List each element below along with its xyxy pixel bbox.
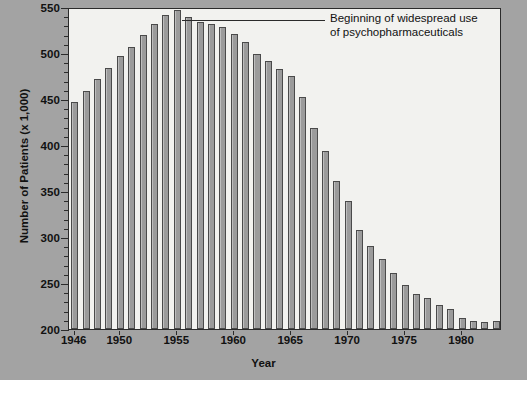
bars-layer (69, 9, 500, 329)
x-tick-label: 1955 (163, 334, 189, 346)
y-minor-tick (64, 183, 69, 184)
bar (447, 309, 454, 329)
y-minor-tick (64, 220, 69, 221)
bar (197, 22, 204, 329)
y-minor-tick (64, 82, 69, 83)
y-minor-tick (64, 275, 69, 276)
plot-area (68, 8, 501, 330)
bar (219, 27, 226, 329)
bar (390, 273, 397, 329)
y-minor-tick (64, 63, 69, 64)
x-tick-label: 1950 (106, 334, 132, 346)
y-minor-tick (64, 293, 69, 294)
bar (253, 54, 260, 329)
y-major-tick (61, 8, 69, 9)
x-major-tick (404, 331, 405, 335)
y-minor-tick (64, 26, 69, 27)
x-major-tick (74, 331, 75, 335)
bar (185, 17, 192, 329)
y-minor-tick (64, 302, 69, 303)
annotation-line-1: Beginning of widespread use (330, 11, 520, 25)
y-minor-tick (64, 312, 69, 313)
bar (402, 285, 409, 329)
y-minor-tick (64, 174, 69, 175)
y-axis: 200250300350400450500550 (0, 0, 68, 338)
bar (459, 318, 466, 329)
x-tick-label: 1975 (391, 334, 417, 346)
y-minor-tick (64, 155, 69, 156)
bar (117, 56, 124, 329)
y-minor-tick (64, 45, 69, 46)
y-major-tick (61, 54, 69, 55)
y-minor-tick (64, 72, 69, 73)
y-minor-tick (64, 256, 69, 257)
bar (470, 321, 477, 329)
bar (356, 230, 363, 329)
y-minor-tick (64, 210, 69, 211)
x-tick-label: 1965 (277, 334, 303, 346)
y-major-tick (61, 284, 69, 285)
x-major-tick (119, 331, 120, 335)
x-major-tick (347, 331, 348, 335)
bar (242, 42, 249, 329)
bar (379, 259, 386, 329)
y-major-tick (61, 330, 69, 331)
bar (128, 47, 135, 329)
y-minor-tick (64, 247, 69, 248)
y-major-tick (61, 238, 69, 239)
y-major-tick (61, 192, 69, 193)
y-major-tick (61, 100, 69, 101)
x-tick-label: 1980 (448, 334, 474, 346)
bar (413, 294, 420, 329)
bar (493, 321, 500, 329)
y-minor-tick (64, 128, 69, 129)
x-tick-label: 1960 (220, 334, 246, 346)
annotation-leader-line (182, 20, 325, 21)
annotation-psychopharmaceuticals: Beginning of widespread use of psychopha… (330, 11, 520, 39)
x-major-tick (233, 331, 234, 335)
bar (151, 24, 158, 329)
y-major-tick (61, 146, 69, 147)
bar (174, 10, 181, 329)
y-minor-tick (64, 266, 69, 267)
y-tick-label: 550 (41, 2, 61, 14)
bar (83, 91, 90, 329)
bar (208, 24, 215, 329)
x-major-tick (461, 331, 462, 335)
y-minor-tick (64, 229, 69, 230)
y-tick-label: 400 (41, 140, 61, 152)
y-minor-tick (64, 137, 69, 138)
x-tick-label: 1946 (61, 334, 87, 346)
y-minor-tick (64, 201, 69, 202)
bar (105, 68, 112, 329)
y-minor-tick (64, 91, 69, 92)
bar (288, 76, 295, 329)
bar (424, 298, 431, 329)
bar (162, 15, 169, 329)
bar (333, 181, 340, 329)
bar (345, 201, 352, 329)
y-minor-tick (64, 36, 69, 37)
y-minor-tick (64, 321, 69, 322)
x-major-tick (290, 331, 291, 335)
y-tick-label: 300 (41, 232, 61, 244)
x-tick-label: 1970 (334, 334, 360, 346)
bar (276, 69, 283, 329)
y-axis-title: Number of Patients (x 1,000) (18, 46, 30, 286)
y-tick-label: 250 (41, 278, 61, 290)
y-tick-label: 350 (41, 186, 61, 198)
y-tick-label: 450 (41, 94, 61, 106)
y-minor-tick (64, 118, 69, 119)
y-tick-label: 200 (41, 324, 61, 336)
bar (310, 128, 317, 329)
bar (140, 35, 147, 329)
bar (436, 305, 443, 329)
y-tick-label: 500 (41, 48, 61, 60)
y-minor-tick (64, 109, 69, 110)
bar (265, 61, 272, 329)
bar (322, 151, 329, 329)
bar (299, 97, 306, 329)
chart-figure: 200250300350400450500550 Number of Patie… (0, 0, 527, 380)
x-axis-title: Year (0, 357, 527, 369)
y-minor-tick (64, 17, 69, 18)
